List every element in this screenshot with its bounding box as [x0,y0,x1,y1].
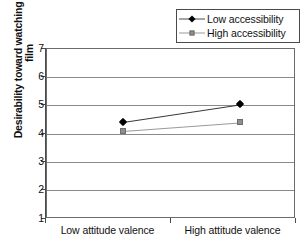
series-line-high-accessibility [123,122,240,131]
legend-label-high-accessibility: High accessibility [207,27,286,39]
data-point-low-accessibility-0 [119,118,127,126]
legend-key-diamond [179,13,205,25]
y-tick-label-6: 6 [14,71,44,81]
gridline-6 [47,77,294,78]
x-tick-mark [45,218,46,223]
x-tick-mark [170,218,171,223]
y-tick-label-5: 5 [14,99,44,109]
plot-area [46,48,295,218]
legend-item-high-accessibility: High accessibility [179,26,296,40]
diamond-marker-icon [188,15,195,22]
data-point-high-accessibility-1 [237,119,243,125]
legend-item-low-accessibility: Low accessibility [179,12,296,26]
square-marker-icon [190,31,195,36]
x-axis-label-high-attitude-valence: High attitude valence [170,224,295,236]
data-point-low-accessibility-1 [236,100,244,108]
gridline-4 [47,134,294,135]
gridline-5 [47,105,294,106]
y-tick-label-2: 2 [14,184,44,194]
legend-label-low-accessibility: Low accessibility [207,13,284,25]
gridline-3 [47,162,294,163]
data-point-high-accessibility-0 [120,128,126,134]
y-axis-labels: 7 6 5 4 3 2 1 [0,0,44,250]
chart-legend: Low accessibility High accessibility [176,9,300,43]
y-tick-label-7: 7 [14,43,44,53]
y-tick-label-4: 4 [14,128,44,138]
y-tick-label-1: 1 [14,213,44,223]
series-line-low-accessibility [123,104,240,123]
x-tick-mark [295,218,296,223]
y-tick-label-3: 3 [14,156,44,166]
line-chart: Low accessibility High accessibility Des… [0,0,308,250]
x-axis-label-low-attitude-valence: Low attitude valence [45,224,170,236]
gridline-2 [47,190,294,191]
legend-key-square [179,27,205,39]
